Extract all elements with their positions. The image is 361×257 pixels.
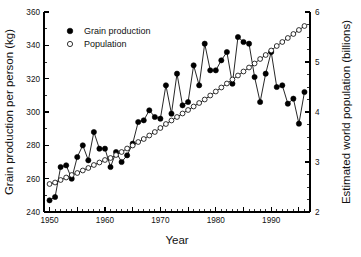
data-point-grain (285, 101, 290, 106)
y2-axis-ticks: 23456 (305, 8, 320, 217)
data-point-grain (180, 103, 185, 108)
data-point-grain (258, 99, 263, 104)
series-group (47, 24, 307, 203)
data-point-population (297, 28, 302, 33)
y-axis-ticks: 240260280300320340360 (26, 8, 49, 217)
y-tick-label: 320 (26, 75, 40, 84)
data-point-population (258, 57, 263, 62)
x-tick-label: 1960 (96, 216, 115, 225)
data-point-population (175, 115, 180, 120)
data-point-grain (163, 83, 168, 88)
y2-axis-title: Estimated world population (billions) (340, 20, 352, 204)
data-point-grain (136, 119, 141, 124)
data-point-population (274, 44, 279, 49)
data-point-population (263, 53, 268, 58)
data-point-grain (246, 41, 251, 46)
data-point-grain (64, 163, 69, 168)
data-point-population (69, 173, 74, 178)
x-tick-label: 1990 (262, 216, 281, 225)
data-point-population (53, 180, 58, 185)
data-point-grain (47, 198, 52, 203)
x-tick-label: 1950 (40, 216, 59, 225)
data-point-population (285, 36, 290, 41)
y-tick-label: 300 (26, 108, 40, 117)
data-point-population (236, 73, 241, 78)
legend-label-grain-production: Grain production (84, 26, 151, 36)
x-tick-label: 1980 (207, 216, 226, 225)
data-point-grain (241, 39, 246, 44)
data-point-population (197, 101, 202, 106)
data-point-population (252, 61, 257, 66)
data-point-population (213, 89, 218, 94)
data-point-population (114, 153, 119, 158)
data-point-population (80, 168, 85, 173)
data-point-population (180, 111, 185, 116)
data-point-population (164, 122, 169, 127)
data-point-population (75, 171, 80, 176)
data-point-grain (58, 164, 63, 169)
data-point-population (247, 65, 252, 70)
data-point-population (158, 126, 163, 131)
data-point-population (269, 48, 274, 53)
data-point-population (280, 40, 285, 45)
data-point-population (191, 104, 196, 109)
data-point-grain (75, 154, 80, 159)
data-point-population (208, 93, 213, 98)
y2-tick-label: 5 (315, 58, 320, 67)
grain-population-line-chart: 2402602803003203403602345619501960197019… (0, 0, 361, 257)
data-point-grain (141, 118, 146, 123)
data-point-grain (108, 164, 113, 169)
data-point-population (119, 150, 124, 155)
y-tick-label: 360 (26, 8, 40, 17)
data-point-grain (80, 143, 85, 148)
data-point-population (91, 163, 96, 168)
data-point-population (108, 156, 113, 161)
data-point-population (136, 140, 141, 145)
data-point-grain (185, 99, 190, 104)
data-point-grain (274, 84, 279, 89)
data-point-population (230, 77, 235, 82)
data-point-population (47, 182, 52, 187)
data-point-grain (302, 89, 307, 94)
x-axis-title: Year (165, 234, 188, 246)
data-point-grain (263, 71, 268, 76)
data-point-population (202, 97, 207, 102)
data-point-grain (252, 74, 257, 79)
data-point-grain (125, 153, 130, 158)
data-point-grain (169, 111, 174, 116)
data-point-grain (147, 108, 152, 113)
data-point-grain (152, 114, 157, 119)
data-point-grain (102, 146, 107, 151)
data-point-population (152, 130, 157, 135)
data-point-grain (296, 121, 301, 126)
x-axis-ticks: 19501960197019801990 (40, 207, 304, 225)
data-point-population (169, 118, 174, 123)
data-point-grain (174, 71, 179, 76)
data-point-population (186, 108, 191, 113)
data-point-population (219, 85, 224, 90)
legend-label-population: Population (84, 39, 127, 49)
data-point-grain (235, 34, 240, 39)
data-point-population (97, 160, 102, 165)
y-tick-label: 240 (26, 208, 40, 217)
data-point-grain (191, 63, 196, 68)
data-point-grain (291, 96, 296, 101)
data-point-population (58, 178, 63, 183)
chart-figure: 2402602803003203403602345619501960197019… (0, 0, 361, 257)
data-point-population (125, 146, 130, 151)
data-point-population (86, 166, 91, 171)
data-point-population (141, 137, 146, 142)
data-point-grain (91, 129, 96, 134)
legend-marker-population (67, 41, 72, 46)
legend-marker-grain (67, 28, 73, 34)
y-tick-label: 260 (26, 175, 40, 184)
data-point-population (130, 143, 135, 148)
data-point-grain (52, 194, 57, 199)
y-tick-label: 340 (26, 41, 40, 50)
data-point-population (302, 24, 307, 29)
y-axis-title: Grain production per person (kg) (3, 29, 15, 195)
data-point-population (241, 69, 246, 74)
figure-caption (4, 250, 344, 257)
x-tick-label: 1970 (151, 216, 170, 225)
data-point-grain (208, 68, 213, 73)
